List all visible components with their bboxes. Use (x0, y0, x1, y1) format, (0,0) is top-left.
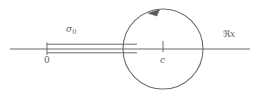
branch-cut-label: σ0 (66, 25, 76, 34)
contour-diagram-canvas (0, 0, 262, 104)
real-part-symbol: ℜ (223, 29, 230, 39)
contour-diagram-figure: σ0 0 c ℜx (0, 0, 262, 104)
origin-label: 0 (44, 56, 50, 65)
real-axis-label: ℜx (223, 30, 235, 39)
circle-center-label: c (160, 56, 165, 65)
branch-cut-label-subscript: 0 (72, 28, 76, 36)
axis-variable-symbol: x (230, 29, 235, 39)
